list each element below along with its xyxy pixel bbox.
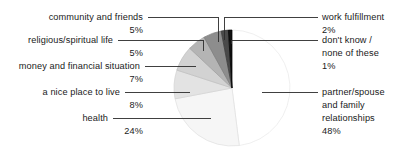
slice-label-religious-spiritual-life: religious/spiritual life	[28, 35, 113, 45]
slice-value-dont-know: 1%	[322, 61, 335, 71]
slice-label-dont-know-line2: none of these	[322, 48, 379, 58]
slice-value-work-fulfillment: 2%	[322, 25, 335, 35]
pie-slice-partner-spouse	[232, 30, 290, 146]
slice-label-health: health	[82, 113, 108, 123]
slice-label-dont-know-line1: don't know /	[322, 35, 372, 45]
slice-value-health: 24%	[124, 126, 143, 136]
slice-label-partner-line3: relationships	[322, 113, 375, 123]
slice-label-a-nice-place-to-live: a nice place to live	[43, 87, 120, 97]
pie-slices	[174, 30, 290, 146]
slice-label-partner-line1: partner/spouse	[322, 87, 385, 97]
slice-label-partner-line2: and family	[322, 100, 365, 110]
slice-value-money-and-financial-situation: 7%	[130, 74, 143, 84]
slice-value-partner: 48%	[322, 126, 341, 136]
slice-label-work-fulfillment: work fulfillment	[322, 12, 384, 22]
slice-value-a-nice-place-to-live: 8%	[130, 100, 143, 110]
pie-chart-figure: community and friends 5% religious/spiri…	[0, 0, 409, 149]
slice-label-community-and-friends: community and friends	[49, 12, 143, 22]
slice-value-community-and-friends: 5%	[130, 25, 143, 35]
slice-label-money-and-financial-situation: money and financial situation	[19, 61, 140, 71]
slice-value-religious-spiritual-life: 5%	[130, 48, 143, 58]
pie-chart-canvas	[0, 0, 409, 149]
